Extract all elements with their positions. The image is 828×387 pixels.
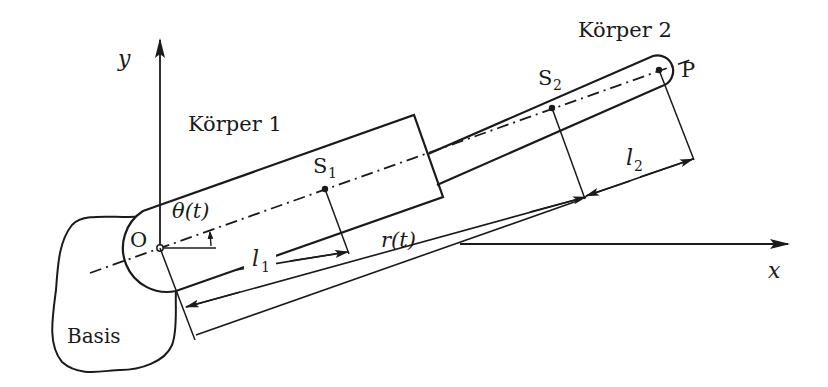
angle-arc xyxy=(210,232,211,246)
p-extension-line xyxy=(659,70,694,160)
r-label: r(t) xyxy=(381,228,416,252)
r-dimension-arrow-right xyxy=(530,197,586,212)
svg-text:1: 1 xyxy=(328,165,337,181)
body-1-label: Körper 1 xyxy=(188,112,282,136)
s2-label: S 2 xyxy=(538,66,562,93)
l1-label: l 1 xyxy=(244,246,276,275)
r-dimension-arrow-left xyxy=(186,292,240,307)
p-label: P xyxy=(681,58,695,82)
svg-text:S: S xyxy=(538,66,552,90)
diagram-canvas: y x Körper 1 Körper 2 O Basis θ(t) S 1 S… xyxy=(0,0,828,387)
l2-label: l 2 xyxy=(626,145,643,174)
l2-arrow-right xyxy=(640,159,693,177)
y-axis-label: y xyxy=(117,46,131,71)
base-label: Basis xyxy=(67,324,121,348)
l1-dimension-arrow-right xyxy=(290,252,348,261)
svg-text:1: 1 xyxy=(261,259,270,275)
l2-arrow-left xyxy=(586,181,630,196)
origin-label: O xyxy=(130,228,147,252)
x-axis-label: x xyxy=(768,258,781,283)
svg-text:l: l xyxy=(626,145,633,170)
svg-text:l: l xyxy=(252,246,259,271)
svg-text:2: 2 xyxy=(634,158,643,174)
angle-label: θ(t) xyxy=(172,199,209,223)
svg-text:S: S xyxy=(313,154,327,178)
svg-text:2: 2 xyxy=(553,77,562,93)
body-2-label: Körper 2 xyxy=(578,18,672,42)
